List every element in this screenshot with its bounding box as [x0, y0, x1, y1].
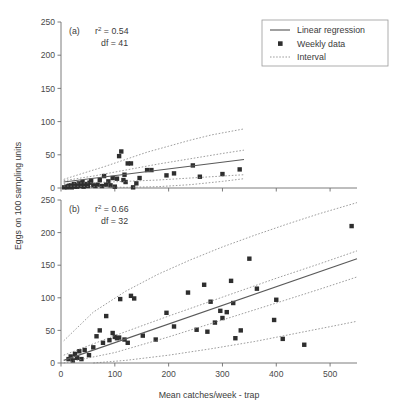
x-axis-title: Mean catches/week - trap — [159, 390, 260, 400]
y-tick-label: 100 — [41, 117, 56, 127]
y-tick-label: 100 — [41, 293, 56, 303]
data-point — [132, 296, 136, 300]
y-tick-label: 0 — [50, 183, 55, 193]
x-tick-label: 200 — [161, 369, 176, 379]
data-point — [239, 328, 243, 332]
data-point — [274, 298, 278, 302]
data-point — [164, 173, 168, 177]
y-tick-label: 200 — [41, 228, 56, 238]
data-point — [218, 309, 222, 313]
data-point — [106, 179, 110, 183]
data-point — [164, 311, 168, 315]
y-tick-label: 250 — [41, 195, 56, 205]
r-squared-text: r2 = 0.66 — [95, 203, 129, 214]
x-tick-label: 100 — [108, 369, 123, 379]
data-point — [126, 341, 130, 345]
y-tick-label: 0 — [50, 358, 55, 368]
data-point — [247, 256, 251, 260]
scatter-figure: 050100150200250(a)r2 = 0.54df = 41010020… — [0, 0, 394, 411]
y-tick-label: 250 — [41, 17, 56, 27]
data-point — [233, 336, 237, 340]
x-tick-label: 300 — [215, 369, 230, 379]
y-tick-label: 150 — [41, 84, 56, 94]
panel-b: 0100200300400500050100150200250(b)r2 = 0… — [41, 195, 357, 378]
data-point — [186, 290, 190, 294]
data-point — [71, 358, 75, 362]
data-point — [79, 357, 83, 361]
y-tick-label: 150 — [41, 260, 56, 270]
data-point — [100, 184, 104, 188]
data-point — [229, 279, 233, 283]
y-tick-label: 50 — [45, 326, 55, 336]
data-point — [119, 149, 123, 153]
data-point — [87, 353, 91, 357]
interval-band-line — [64, 277, 357, 363]
data-point — [117, 154, 121, 158]
data-point — [117, 335, 121, 339]
data-point — [123, 180, 127, 184]
data-point — [202, 283, 206, 287]
data-point — [349, 224, 353, 228]
data-point — [137, 176, 141, 180]
data-point — [302, 343, 306, 347]
data-point — [172, 324, 176, 328]
df-text: df = 32 — [101, 216, 128, 226]
data-point — [113, 184, 117, 188]
data-point — [198, 175, 202, 179]
x-tick-label: 0 — [59, 369, 64, 379]
regression-line — [64, 259, 357, 361]
data-point — [98, 328, 102, 332]
data-point-group — [66, 224, 353, 363]
data-point — [115, 177, 119, 181]
data-point — [95, 182, 99, 186]
data-point — [110, 331, 114, 335]
legend-item-label: Weekly data — [297, 39, 345, 49]
data-point — [91, 345, 95, 349]
data-point — [98, 178, 102, 182]
data-point — [118, 297, 122, 301]
data-point-group — [62, 149, 242, 189]
legend-item-label: Linear regression — [297, 25, 365, 35]
data-point — [272, 318, 276, 322]
r-squared-text: r2 = 0.54 — [95, 25, 129, 36]
y-axis-title: Eggs on 100 sampling units — [13, 141, 23, 250]
interval-band-line — [64, 150, 244, 181]
x-tick-label: 500 — [323, 369, 338, 379]
data-point — [101, 341, 105, 345]
y-tick-label: 50 — [45, 150, 55, 160]
legend-square-marker-icon — [278, 41, 283, 46]
data-point — [129, 161, 133, 165]
df-text: df = 41 — [101, 38, 128, 48]
data-point — [94, 334, 98, 338]
data-point — [220, 172, 224, 176]
data-point — [225, 310, 229, 314]
data-point — [77, 349, 81, 353]
data-point — [255, 286, 259, 290]
panel-tag: (a) — [69, 26, 80, 36]
data-point — [281, 337, 285, 341]
y-tick-label: 200 — [41, 50, 56, 60]
data-point — [104, 314, 108, 318]
data-point — [237, 167, 241, 171]
x-tick-label: 400 — [269, 369, 284, 379]
legend-item-label: Interval — [297, 52, 326, 62]
data-point — [205, 330, 209, 334]
data-point — [172, 171, 176, 175]
regression-line — [64, 159, 244, 182]
legend: Linear regressionWeekly dataInterval — [262, 20, 388, 66]
data-point — [208, 300, 212, 304]
data-point — [134, 181, 138, 185]
interval-band-line — [93, 321, 357, 363]
chart-canvas: 050100150200250(a)r2 = 0.54df = 41010020… — [0, 0, 394, 411]
data-point — [82, 348, 86, 352]
panel-tag: (b) — [69, 204, 80, 214]
